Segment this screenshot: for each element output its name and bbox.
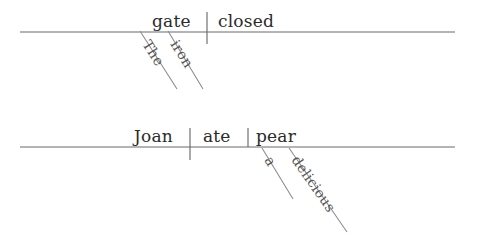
diagram-2-direct-object: pear xyxy=(256,126,297,146)
diagram-canvas: gate closed The iron Joan ate pear a del… xyxy=(0,0,485,245)
diagram-1-subject: gate xyxy=(152,11,191,31)
diagram-2-group: Joan ate pear a delicious xyxy=(20,126,455,232)
diagram-1-group: gate closed The iron xyxy=(20,11,455,89)
diagram-1-modifier-iron: iron xyxy=(167,37,196,70)
diagram-2-predicate: ate xyxy=(203,126,231,146)
diagram-2-subject: Joan xyxy=(132,126,173,146)
diagram-2-modifier-a: a xyxy=(261,153,279,169)
diagram-1-predicate: closed xyxy=(218,11,274,31)
diagram-2-modifier-delicious: delicious xyxy=(289,153,339,215)
sentence-diagram-figure: gate closed The iron Joan ate pear a del… xyxy=(0,0,485,245)
diagram-1-modifier-the: The xyxy=(139,37,167,69)
